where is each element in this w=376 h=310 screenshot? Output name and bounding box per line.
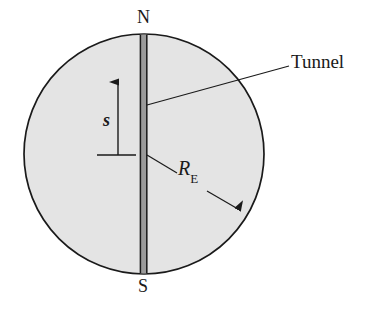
diagram-canvas (0, 0, 376, 310)
earth-radius-label: RE (178, 158, 198, 182)
displacement-label: s (103, 111, 110, 129)
radius-symbol: R (178, 157, 190, 179)
tunnel-shaft (140, 35, 147, 274)
south-pole-label: S (138, 277, 148, 295)
north-pole-label: N (137, 8, 150, 26)
tunnel-label: Tunnel (291, 52, 344, 71)
radius-subscript: E (190, 171, 198, 186)
earth-tunnel-diagram: N S Tunnel s RE (0, 0, 376, 310)
